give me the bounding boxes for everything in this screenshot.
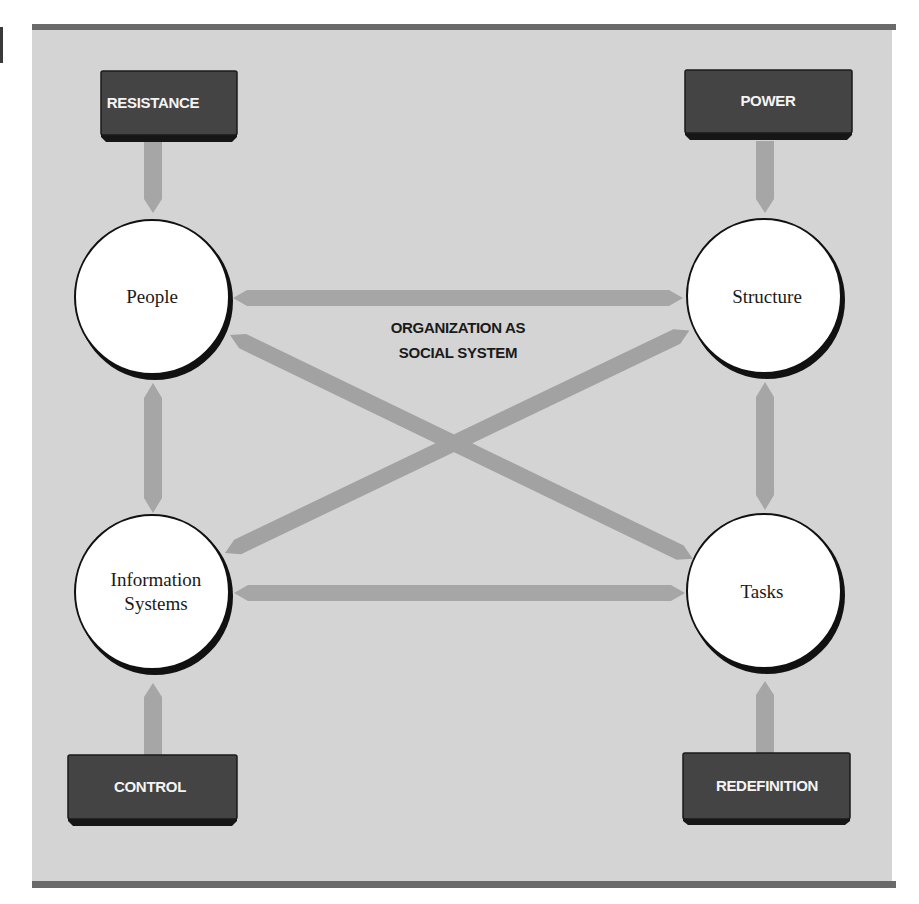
force-box-control: CONTROL bbox=[68, 755, 237, 826]
arrow-control-information-systems bbox=[144, 683, 162, 755]
node-label-tasks: Tasks bbox=[740, 581, 783, 602]
center-label-line-2: SOCIAL SYSTEM bbox=[399, 344, 517, 361]
force-label-resistance: RESISTANCE bbox=[107, 94, 200, 111]
force-label-redefinition: REDEFINITION bbox=[716, 777, 818, 794]
node-circle bbox=[75, 515, 229, 669]
force-box-power: POWER bbox=[685, 70, 852, 140]
arrow-redefinition-tasks bbox=[756, 681, 774, 753]
node-people: People bbox=[75, 220, 233, 380]
force-box-resistance: RESISTANCE bbox=[101, 71, 237, 142]
arrow-power-structure bbox=[756, 141, 774, 213]
node-tasks: Tasks bbox=[687, 514, 845, 674]
arrow-people-structure bbox=[233, 290, 683, 306]
arrow-structure-tasks bbox=[756, 382, 774, 510]
center-label-line-1: ORGANIZATION AS bbox=[391, 319, 526, 336]
force-label-power: POWER bbox=[740, 92, 796, 109]
node-label-systems: Systems bbox=[124, 593, 187, 614]
node-label-information: Information bbox=[111, 569, 202, 590]
organization-social-system-diagram: ORGANIZATION AS SOCIAL SYSTEM People Str… bbox=[0, 0, 919, 904]
node-label-structure: Structure bbox=[732, 286, 802, 307]
arrow-information-systems-tasks bbox=[234, 585, 685, 601]
force-label-control: CONTROL bbox=[114, 778, 186, 795]
node-label-people: People bbox=[126, 286, 178, 307]
arrow-resistance-people bbox=[144, 141, 162, 213]
node-structure: Structure bbox=[687, 219, 845, 379]
arrow-people-information-systems bbox=[144, 383, 162, 513]
force-box-redefinition: REDEFINITION bbox=[683, 753, 850, 825]
node-information-systems: Information Systems bbox=[75, 515, 233, 675]
center-label: ORGANIZATION AS SOCIAL SYSTEM bbox=[391, 319, 526, 361]
